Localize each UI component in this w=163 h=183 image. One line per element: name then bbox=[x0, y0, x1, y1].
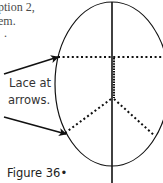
diagonal-lace-left bbox=[65, 99, 111, 133]
ellipse-outline bbox=[55, 2, 163, 166]
diagonal-lace-right bbox=[114, 99, 155, 136]
callout-lace-label-line-1: Lace at bbox=[9, 75, 51, 91]
callout-lace-label-line-2: arrows. bbox=[8, 92, 50, 108]
lower-arrow bbox=[4, 117, 66, 134]
figure-label: Figure 36• bbox=[7, 166, 67, 180]
upper-arrow bbox=[4, 57, 58, 74]
